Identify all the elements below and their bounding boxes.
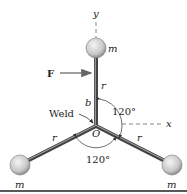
rod-left-label: r <box>52 132 58 143</box>
mass-right-label: m <box>167 179 176 190</box>
force-label: F <box>47 68 54 79</box>
mass-left-label: m <box>15 179 24 190</box>
mass-left <box>10 155 30 175</box>
mass-top <box>86 38 106 58</box>
angle-lower-label: 120° <box>86 154 110 165</box>
x-axis-label: x <box>166 118 172 129</box>
diagram-canvas: y x m m m F r r r b Weld O 120° <box>0 0 187 194</box>
mass-right <box>162 155 182 175</box>
angle-upper-label: 120° <box>112 106 136 117</box>
y-axis-label: y <box>92 8 99 19</box>
offset-b-label: b <box>85 97 91 108</box>
weld-label: Weld <box>49 108 75 119</box>
origin-label: O <box>92 128 100 139</box>
rod-top-label: r <box>101 80 107 91</box>
rod-right-label: r <box>137 132 143 143</box>
weld-pointer <box>79 114 93 123</box>
mass-top-label: m <box>108 43 117 54</box>
